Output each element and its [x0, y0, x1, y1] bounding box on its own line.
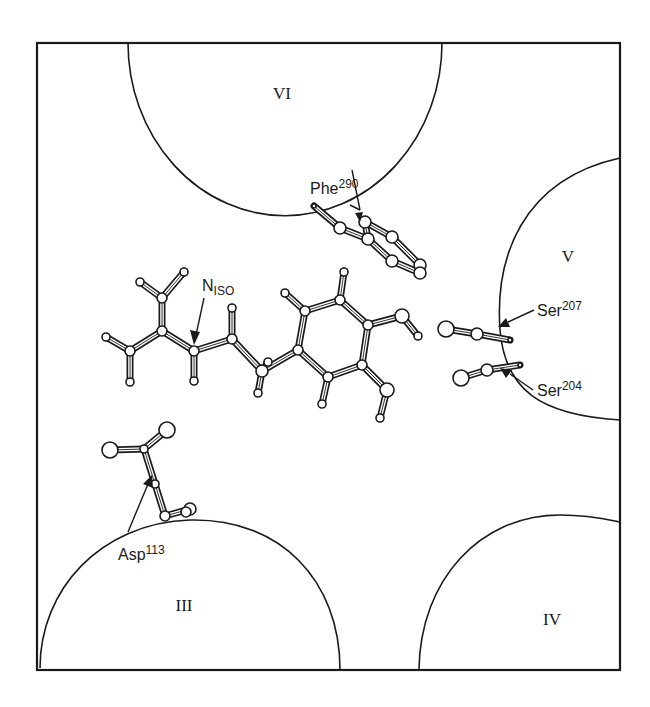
ser204-atom	[453, 370, 469, 386]
asp-arrow	[128, 475, 153, 532]
ser207-arrow	[498, 310, 534, 327]
ligand-atom	[126, 378, 134, 386]
binding-site-diagram: VI V III IV Phe290 NISO Ser207 Ser204 As…	[0, 0, 650, 707]
asp-atom	[159, 422, 175, 438]
helix-iii-label: III	[176, 596, 193, 615]
phe-label: Phe290	[310, 177, 359, 197]
ligand-bond	[194, 339, 232, 351]
asp-atom	[160, 511, 170, 521]
niso-arrow	[190, 298, 204, 345]
ligand-atom	[340, 268, 348, 276]
ligand-bond	[298, 350, 328, 377]
ligand-atom	[395, 309, 409, 323]
ligand-atom	[256, 365, 268, 377]
ser204-atom	[518, 363, 522, 367]
ligand-atom	[125, 346, 135, 356]
ligand-atom	[136, 278, 144, 286]
ligand-atom	[281, 289, 289, 297]
phe-atom	[312, 204, 316, 208]
asp-label-number: 113	[146, 543, 165, 557]
helix-vi-label: VI	[273, 84, 291, 103]
ligand-bond	[298, 311, 305, 350]
ligand-atom	[189, 346, 199, 356]
ligand-atom	[335, 295, 345, 305]
ligand-atom	[376, 414, 384, 422]
ligand-atom	[157, 293, 167, 303]
helix-v-outline	[499, 158, 620, 420]
ligand-atom	[318, 400, 326, 408]
ser207-atom	[508, 338, 512, 342]
ligand-atom	[102, 333, 110, 341]
ser207-atom	[471, 328, 483, 340]
asp-atom	[140, 445, 148, 453]
asp-label: Asp113	[118, 543, 165, 563]
helix-v-label: V	[562, 247, 575, 266]
isoproterenol-ligand	[102, 268, 422, 422]
phe-atom	[362, 233, 374, 245]
ser207-atom	[438, 321, 454, 337]
ligand-atom	[254, 389, 262, 397]
ligand-atom	[414, 332, 422, 340]
asp113-sidechain	[102, 422, 196, 521]
ligand-atom	[300, 306, 310, 316]
ser204-atom	[481, 364, 493, 376]
ligand-atom	[227, 334, 237, 344]
phe-atom	[334, 222, 346, 234]
phe-atom	[386, 231, 398, 243]
diagram-frame	[37, 43, 620, 670]
ser207-label-number: 207	[562, 299, 582, 313]
ser207-label: Ser207	[537, 299, 582, 319]
helix-iii-outline	[40, 520, 340, 670]
helix-vi-outline	[128, 43, 442, 216]
ligand-atom	[363, 320, 373, 330]
ligand-atom	[180, 268, 188, 276]
helix-iv-label: IV	[543, 610, 562, 629]
ligand-atom	[357, 360, 367, 370]
phe-atom	[386, 255, 398, 267]
asp-atom	[102, 442, 118, 458]
ser207-label-name: Ser	[537, 302, 563, 319]
ligand-atom	[228, 304, 236, 312]
niso-label-main: N	[202, 277, 214, 294]
helix-iv-outline	[419, 515, 620, 670]
asp-label-name: Asp	[118, 546, 146, 563]
ligand-atom	[190, 377, 198, 385]
asp-atom	[181, 507, 191, 517]
phe290-sidechain	[312, 204, 426, 279]
ligand-atom	[323, 372, 333, 382]
ligand-atom	[264, 358, 272, 366]
ser204-label-number: 204	[562, 379, 582, 393]
phe-label-name: Phe	[310, 180, 339, 197]
ser204-label: Ser204	[537, 379, 582, 399]
ser204-arrow	[500, 368, 533, 390]
ligand-atom	[293, 345, 303, 355]
ligand-bond	[362, 325, 368, 365]
niso-label-sub: ISO	[214, 284, 235, 298]
ligand-atom	[157, 326, 167, 336]
niso-label: NISO	[202, 277, 234, 298]
phe-atom	[414, 267, 426, 279]
ligand-atom	[380, 383, 394, 397]
ser204-label-name: Ser	[537, 382, 563, 399]
